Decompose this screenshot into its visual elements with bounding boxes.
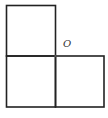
point-o-label: O [63, 38, 71, 49]
square-bottom-right [56, 56, 105, 107]
square-bottom-left [7, 56, 56, 107]
l-shape-diagram: O [0, 0, 108, 118]
square-top-left [7, 6, 56, 57]
point-o-marker [54, 55, 57, 58]
